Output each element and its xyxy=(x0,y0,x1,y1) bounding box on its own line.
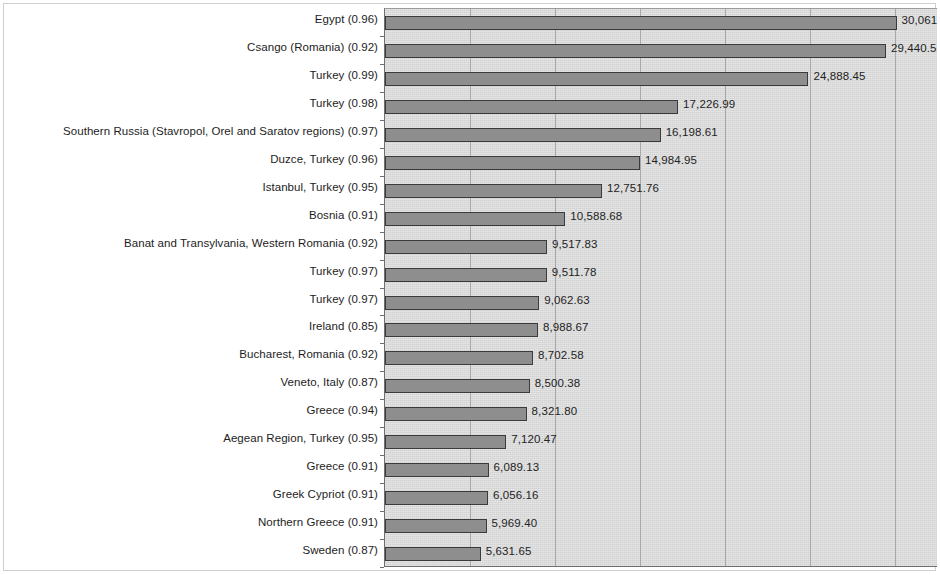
bar xyxy=(385,296,539,310)
bar-value-label: 7,120.47 xyxy=(511,433,557,445)
category-label: Turkey (0.99) xyxy=(0,69,378,81)
bar-row: 6,056.16 xyxy=(385,484,937,512)
bar-value-label: 6,089.13 xyxy=(494,461,540,473)
bar xyxy=(385,351,533,365)
bar xyxy=(385,184,602,198)
bar-row: 8,988.67 xyxy=(385,316,937,344)
bar xyxy=(385,100,678,114)
bar-row: 9,517.83 xyxy=(385,233,937,261)
category-label: Greece (0.91) xyxy=(0,460,378,472)
bar-value-label: 14,984.95 xyxy=(645,154,697,166)
bar xyxy=(385,379,530,393)
bar xyxy=(385,16,897,30)
bar-value-label: 6,056.16 xyxy=(493,489,539,501)
plot-area: 30,061.6029,440.5224,888.4517,226.9916,1… xyxy=(384,8,937,567)
bar xyxy=(385,44,886,58)
category-label: Sweden (0.87) xyxy=(0,544,378,556)
bar-value-label: 5,631.65 xyxy=(486,545,532,557)
category-label: Banat and Transylvania, Western Romania … xyxy=(0,237,378,249)
bar-value-label: 12,751.76 xyxy=(607,182,659,194)
bar-value-label: 16,198.61 xyxy=(666,126,718,138)
bar xyxy=(385,156,640,170)
bar-row: 12,751.76 xyxy=(385,177,937,205)
category-label: Greek Cypriot (0.91) xyxy=(0,488,378,500)
bar xyxy=(385,128,661,142)
bar-row: 10,588.68 xyxy=(385,205,937,233)
bar-row: 8,500.38 xyxy=(385,372,937,400)
category-label: Duzce, Turkey (0.96) xyxy=(0,153,378,165)
bar-value-label: 8,988.67 xyxy=(543,321,589,333)
category-label: Bosnia (0.91) xyxy=(0,209,378,221)
bar-value-label: 30,061.60 xyxy=(902,14,938,26)
bar-row: 17,226.99 xyxy=(385,93,937,121)
category-label: Veneto, Italy (0.87) xyxy=(0,376,378,388)
bar-row: 30,061.60 xyxy=(385,9,937,37)
category-label: Csango (Romania) (0.92) xyxy=(0,41,378,53)
horizontal-bar-chart: Egypt (0.96)Csango (Romania) (0.92)Turke… xyxy=(0,0,940,575)
bar-row: 7,120.47 xyxy=(385,428,937,456)
category-label: Turkey (0.98) xyxy=(0,97,378,109)
bar xyxy=(385,240,547,254)
bar-value-label: 29,440.52 xyxy=(891,42,937,54)
bar-row: 6,089.13 xyxy=(385,456,937,484)
bar xyxy=(385,212,565,226)
bar-value-label: 8,702.58 xyxy=(538,349,584,361)
category-label: Ireland (0.85) xyxy=(0,320,378,332)
bar-value-label: 9,517.83 xyxy=(552,238,598,250)
bar xyxy=(385,407,527,421)
category-label: Aegean Region, Turkey (0.95) xyxy=(0,432,378,444)
bar xyxy=(385,268,547,282)
bar xyxy=(385,463,489,477)
bar-row: 29,440.52 xyxy=(385,37,937,65)
bar-value-label: 9,062.63 xyxy=(544,294,590,306)
category-label: Istanbul, Turkey (0.95) xyxy=(0,181,378,193)
category-label: Southern Russia (Stavropol, Orel and Sar… xyxy=(0,125,378,137)
category-label: Turkey (0.97) xyxy=(0,265,378,277)
bar xyxy=(385,491,488,505)
category-label: Turkey (0.97) xyxy=(0,293,378,305)
bar-row: 24,888.45 xyxy=(385,65,937,93)
chart-screenshot: Egypt (0.96)Csango (Romania) (0.92)Turke… xyxy=(0,0,940,575)
bar xyxy=(385,323,538,337)
bar-value-label: 8,321.80 xyxy=(532,405,578,417)
category-label: Bucharest, Romania (0.92) xyxy=(0,348,378,360)
category-axis-labels: Egypt (0.96)Csango (Romania) (0.92)Turke… xyxy=(0,8,384,567)
bar-value-label: 17,226.99 xyxy=(683,98,735,110)
bar-value-label: 9,511.78 xyxy=(552,266,597,278)
bar xyxy=(385,547,481,561)
bar-row: 9,062.63 xyxy=(385,289,937,317)
bar-value-label: 5,969.40 xyxy=(492,517,538,529)
bar-value-label: 8,500.38 xyxy=(535,377,581,389)
category-label: Northern Greece (0.91) xyxy=(0,516,378,528)
bar-row: 8,321.80 xyxy=(385,400,937,428)
category-label: Greece (0.94) xyxy=(0,404,378,416)
bar-row: 9,511.78 xyxy=(385,261,937,289)
bar-row: 8,702.58 xyxy=(385,344,937,372)
bar-value-label: 10,588.68 xyxy=(570,210,622,222)
bar-row: 14,984.95 xyxy=(385,149,937,177)
axis-tick xyxy=(380,567,384,568)
category-label: Egypt (0.96) xyxy=(0,13,378,25)
bar-row: 5,631.65 xyxy=(385,540,937,567)
bar-row: 5,969.40 xyxy=(385,512,937,540)
bar xyxy=(385,519,487,533)
bar-row: 16,198.61 xyxy=(385,121,937,149)
bar-value-label: 24,888.45 xyxy=(813,70,865,82)
bar xyxy=(385,435,506,449)
bar xyxy=(385,72,808,86)
